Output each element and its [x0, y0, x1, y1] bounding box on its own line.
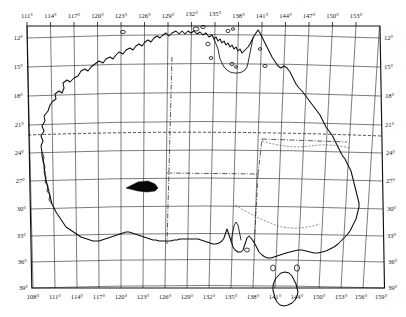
lat-right-2: 18°	[385, 92, 395, 99]
lon-top-3: 120°	[91, 12, 104, 19]
lon-bot-7: 129°	[181, 293, 194, 300]
lon-bot-8: 132°	[203, 293, 216, 300]
tropic-of-capricorn-line	[28, 132, 381, 136]
shaded-study-area-marker	[126, 181, 158, 192]
lon-top-11: 144°	[279, 12, 292, 19]
lon-bot-14: 153°	[335, 293, 348, 300]
lon-bot-1: 111°	[49, 293, 61, 300]
lon-top-8: 135°	[209, 10, 222, 17]
axis-tickmarks	[27, 22, 356, 26]
lat-right-0: 12°	[384, 34, 394, 41]
lon-top-12: 147°	[303, 12, 316, 19]
lon-top-14: 153°	[350, 12, 363, 19]
lon-bot-11: 141°	[269, 293, 282, 300]
lat-left-6: 30°	[17, 205, 27, 212]
latitude-labels-right: 12° 15° 18° 21° 24° 27° 30° 33° 36° 39°	[384, 34, 398, 291]
lon-bot-3: 117°	[93, 293, 106, 300]
australia-mainland-coastline	[41, 30, 359, 258]
lon-bot-2: 114°	[71, 293, 84, 300]
lat-right-1: 15°	[384, 63, 394, 70]
lon-top-2: 117°	[68, 12, 81, 19]
lat-right-3: 21°	[385, 121, 395, 128]
latitude-labels-left: 12° 15° 18° 21° 24° 27° 30° 33° 36° 39°	[14, 34, 29, 291]
lon-bot-6: 126°	[159, 293, 172, 300]
lon-top-9: 138°	[232, 12, 245, 19]
lon-bot-15: 156°	[355, 293, 368, 300]
lon-top-6: 129°	[162, 12, 175, 19]
lon-top-5: 126°	[138, 12, 151, 19]
lon-bot-16: 159°	[375, 293, 388, 300]
longitude-labels-bottom: 108° 111° 114° 117° 120° 123° 126° 129° …	[27, 293, 388, 300]
lat-left-2: 18°	[14, 92, 24, 99]
lat-left-8: 36°	[18, 258, 28, 265]
lat-right-4: 24°	[386, 149, 396, 156]
lon-bot-0: 108°	[27, 293, 40, 300]
lon-bot-12: 144°	[291, 293, 304, 300]
lat-right-5: 27°	[386, 177, 396, 184]
lat-left-1: 15°	[14, 63, 24, 70]
australia-map: 111° 114° 117° 120° 123° 126° 129° 132° …	[0, 0, 406, 317]
lon-top-13: 150°	[326, 12, 339, 19]
map-canvas: 111° 114° 117° 120° 123° 126° 129° 132° …	[0, 0, 406, 317]
lat-left-3: 21°	[15, 121, 25, 128]
lat-left-5: 27°	[16, 177, 26, 184]
lon-bot-10: 138°	[247, 293, 260, 300]
lon-top-0: 111°	[21, 12, 33, 19]
lon-top-1: 114°	[44, 12, 57, 19]
longitude-labels-top: 111° 114° 117° 120° 123° 126° 129° 132° …	[21, 10, 363, 19]
lat-left-7: 33°	[17, 232, 27, 239]
tasmania-coastline	[273, 272, 298, 306]
lat-left-9: 39°	[19, 284, 29, 291]
lon-top-10: 141°	[256, 12, 269, 19]
lon-top-4: 123°	[115, 12, 128, 19]
lat-right-9: 39°	[388, 284, 398, 291]
lon-top-7: 132°	[185, 10, 198, 17]
lon-bot-5: 123°	[137, 293, 150, 300]
lat-right-7: 33°	[387, 232, 397, 239]
lat-right-8: 36°	[388, 258, 398, 265]
lon-bot-13: 150°	[313, 293, 326, 300]
lat-right-6: 30°	[387, 205, 397, 212]
lon-bot-4: 120°	[115, 293, 128, 300]
gulf-of-carpentaria-coast	[214, 38, 253, 73]
lon-bot-9: 135°	[225, 293, 238, 300]
lat-left-4: 24°	[15, 149, 25, 156]
lat-left-0: 12°	[14, 34, 24, 41]
